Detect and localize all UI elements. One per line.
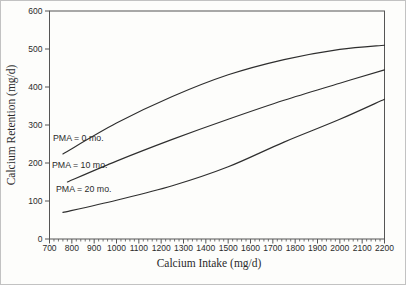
x-tick-label: 1200: [152, 243, 171, 253]
x-tick-label: 2200: [375, 243, 394, 253]
curve-label-pma-10-mo: PMA = 10 mo.: [52, 160, 108, 170]
y-tick-label: 0: [38, 234, 43, 244]
x-tick-label: 2000: [330, 243, 349, 253]
y-axis-title: Calcium Retention (mg/d): [5, 64, 18, 185]
x-tick-label: 1900: [308, 243, 327, 253]
x-tick-label: 1000: [107, 243, 126, 253]
curve-pma-10-mo: [67, 70, 384, 182]
curve-pma-0-mo: [63, 45, 385, 154]
figure: 7008009001000110012001300140015001600170…: [0, 0, 406, 285]
calcium-retention-chart: 7008009001000110012001300140015001600170…: [1, 1, 406, 285]
x-tick-label: 1400: [196, 243, 215, 253]
x-tick-label: 1500: [219, 243, 238, 253]
x-tick-label: 1100: [130, 243, 149, 253]
x-tick-label: 1700: [263, 243, 282, 253]
x-tick-label: 800: [65, 243, 79, 253]
x-tick-label: 1600: [241, 243, 260, 253]
x-tick-label: 1300: [174, 243, 193, 253]
y-tick-label: 500: [28, 44, 42, 54]
x-tick-label: 1800: [286, 243, 305, 253]
plot-frame: [50, 11, 385, 239]
x-axis-title: Calcium Intake (mg/d): [157, 257, 262, 270]
x-tick-label: 2100: [353, 243, 372, 253]
x-tick-label: 700: [42, 243, 56, 253]
curve-pma-20-mo: [63, 99, 385, 212]
curve-label-pma-20-mo: PMA = 20 mo.: [56, 184, 112, 194]
x-tick-label: 900: [87, 243, 101, 253]
y-tick-label: 200: [28, 158, 42, 168]
y-tick-label: 600: [28, 6, 42, 16]
y-tick-label: 100: [28, 196, 42, 206]
y-tick-label: 300: [28, 120, 42, 130]
y-tick-label: 400: [28, 82, 42, 92]
curve-label-pma-0-mo: PMA = 0 mo.: [53, 133, 104, 143]
